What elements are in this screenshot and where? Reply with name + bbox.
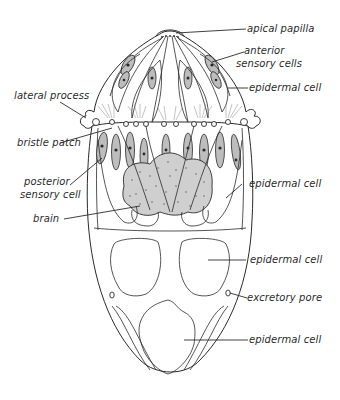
label-anterior-sensory-cells-line1: anterior [244, 45, 284, 56]
label-anterior-sensory-cells-line2: sensory cells [236, 58, 302, 69]
label-epidermal-cell-3: epidermal cell [250, 254, 322, 265]
diagram-figure: apical papilla anterior sensory cells ep… [0, 0, 340, 400]
label-epidermal-cell-1: epidermal cell [249, 82, 321, 93]
label-brain: brain [33, 213, 59, 224]
label-posterior-sensory-cell-line1: posterior [24, 176, 70, 187]
label-epidermal-cell-4: epidermal cell [249, 334, 321, 345]
label-epidermal-cell-2: epidermal cell [249, 178, 321, 189]
anterior-sensory-cells [110, 35, 230, 122]
excretory-pores [110, 290, 230, 298]
label-apical-papilla: apical papilla [247, 23, 315, 34]
label-bristle-patch: bristle patch [17, 137, 81, 148]
label-lateral-process: lateral process [14, 90, 89, 101]
posterior-epidermal-cells [111, 238, 230, 374]
label-excretory-pore: excretory pore [247, 292, 322, 303]
label-posterior-sensory-cell-line2: sensory cell [20, 189, 81, 200]
